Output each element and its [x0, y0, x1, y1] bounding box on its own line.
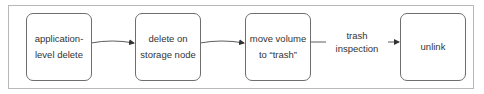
node-label-line: to “trash”: [250, 47, 307, 63]
node-label-line: level delete: [35, 47, 84, 63]
node-label-line: move volume: [250, 31, 307, 47]
edge-n1-n2: [91, 41, 134, 43]
node-delete-on-storage-node: delete on storage node: [135, 13, 201, 81]
edge-label-line: inspection: [328, 42, 386, 55]
node-unlink: unlink: [400, 13, 466, 81]
node-move-volume-to-trash: move volume to “trash”: [245, 13, 311, 81]
edge-n2-n3: [200, 41, 244, 43]
node-label-line: storage node: [140, 47, 195, 63]
node-label-line: application-: [35, 31, 84, 47]
node-application-level-delete: application- level delete: [26, 13, 92, 81]
node-label-line: delete on: [140, 31, 195, 47]
edge-label-trash-inspection: trash inspection: [326, 29, 388, 55]
edge-label-line: trash: [328, 29, 386, 42]
node-label-line: unlink: [421, 39, 446, 55]
